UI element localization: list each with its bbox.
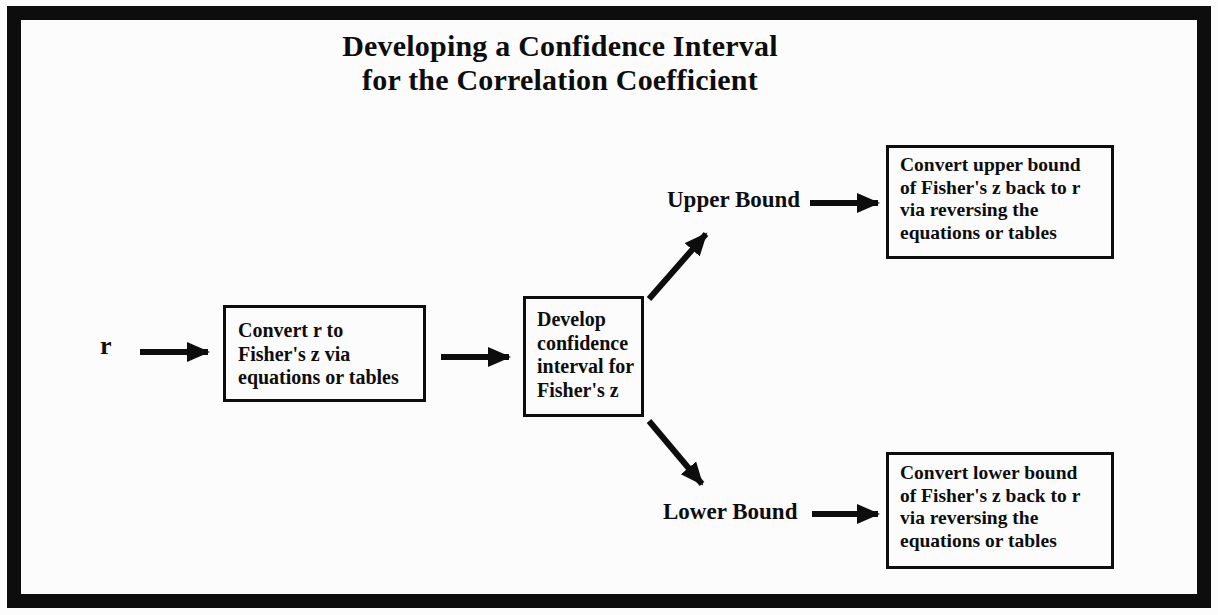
- upper-bound-label: Upper Bound: [667, 187, 800, 213]
- node-text-line: via reversing the: [900, 507, 1111, 530]
- node-convert-upper-bound: Convert upper bound of Fisher's z back t…: [886, 145, 1114, 259]
- start-node-r: r: [100, 333, 112, 359]
- node-text-line: of Fisher's z back to r: [900, 177, 1111, 200]
- node-text-line: interval for: [537, 355, 641, 379]
- flowchart-canvas: Developing a Confidence Interval for the…: [0, 0, 1218, 615]
- diagram-title-line1: Developing a Confidence Interval: [60, 29, 1060, 63]
- node-text-line: Convert lower bound: [900, 462, 1111, 485]
- node-text-line: confidence: [537, 332, 641, 356]
- lower-bound-label: Lower Bound: [663, 499, 797, 525]
- node-text-line: of Fisher's z back to r: [900, 485, 1111, 508]
- node-convert-r-to-fishers-z: Convert r to Fisher's z via equations or…: [223, 305, 426, 402]
- node-convert-lower-bound: Convert lower bound of Fisher's z back t…: [886, 452, 1114, 569]
- node-text-line: Fisher's z: [537, 379, 641, 403]
- node-text-line: Convert upper bound: [900, 154, 1111, 177]
- node-text-line: equations or tables: [900, 530, 1111, 553]
- node-text-line: equations or tables: [238, 366, 423, 390]
- node-text-line: via reversing the: [900, 199, 1111, 222]
- diagram-title: Developing a Confidence Interval for the…: [60, 29, 1060, 97]
- diagram-title-line2: for the Correlation Coefficient: [60, 63, 1060, 97]
- node-develop-confidence-interval: Develop confidence interval for Fisher's…: [523, 296, 644, 417]
- node-text-line: Develop: [537, 308, 641, 332]
- node-text-line: equations or tables: [900, 222, 1111, 245]
- node-text-line: Convert r to: [238, 319, 423, 343]
- node-text-line: Fisher's z via: [238, 343, 423, 367]
